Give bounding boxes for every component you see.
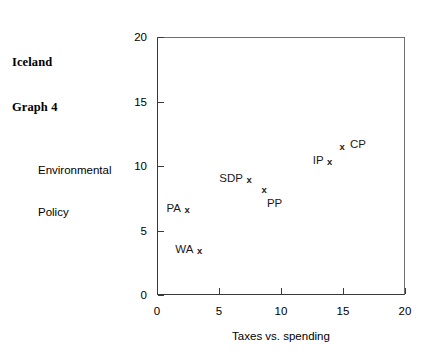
data-point-label-sdp: SDP — [219, 172, 243, 184]
y-axis-label-line-1: Environmental — [38, 163, 112, 177]
x-tick-label-20: 20 — [390, 305, 420, 317]
chart-title-line-1: Iceland — [12, 55, 58, 70]
y-tick-10 — [158, 166, 164, 167]
chart-title-line-2: Graph 4 — [12, 100, 58, 115]
x-marker-icon: x — [247, 175, 252, 185]
y-tick-label-5: 5 — [113, 225, 147, 237]
data-point-label-wa: WA — [175, 243, 193, 255]
x-tick-10 — [281, 288, 282, 294]
y-tick-label-0: 0 — [113, 289, 147, 301]
y-axis-label: Environmental Policy — [38, 135, 112, 247]
x-tick-label-0: 0 — [142, 305, 172, 317]
plot-area — [157, 37, 405, 295]
y-tick-label-15: 15 — [113, 96, 147, 108]
x-tick-label-15: 15 — [328, 305, 358, 317]
data-point-label-cp: CP — [350, 138, 366, 150]
data-point-label-ip: IP — [313, 154, 324, 166]
x-tick-20 — [405, 288, 406, 294]
y-axis-label-line-2: Policy — [38, 205, 112, 219]
y-tick-15 — [158, 102, 164, 103]
y-tick-0 — [158, 295, 164, 296]
y-tick-label-20: 20 — [113, 31, 147, 43]
y-tick-20 — [158, 37, 164, 38]
x-marker-icon: x — [340, 142, 345, 152]
x-marker-icon: x — [197, 246, 202, 256]
x-axis-label: Taxes vs. spending — [157, 330, 405, 342]
x-marker-icon: x — [261, 185, 266, 195]
data-point-label-pa: PA — [167, 202, 182, 214]
chart-page: Iceland Graph 4 Environmental Policy Tax… — [0, 0, 428, 357]
x-marker-icon: x — [185, 205, 190, 215]
x-tick-label-10: 10 — [266, 305, 296, 317]
chart-title: Iceland Graph 4 — [12, 25, 58, 145]
x-tick-label-5: 5 — [204, 305, 234, 317]
x-marker-icon: x — [327, 157, 332, 167]
x-tick-15 — [343, 288, 344, 294]
y-tick-label-10: 10 — [113, 160, 147, 172]
data-point-label-pp: PP — [267, 197, 282, 209]
x-tick-5 — [219, 288, 220, 294]
y-tick-5 — [158, 231, 164, 232]
